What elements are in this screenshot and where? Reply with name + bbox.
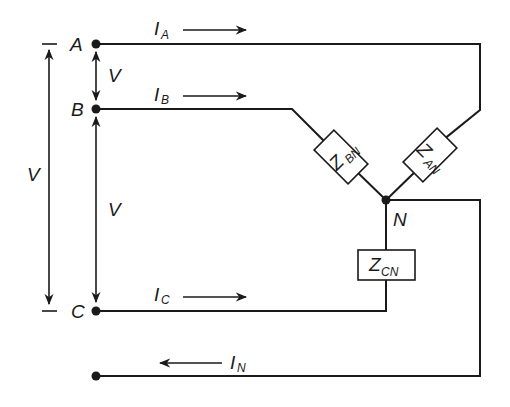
impedance-zbn: Z BN: [314, 127, 371, 184]
line-b-wire: [96, 109, 328, 145]
terminal-b-dot: [92, 105, 101, 114]
impedance-zcn: Z CN: [358, 250, 415, 280]
zan-to-n-wire: [386, 170, 417, 200]
current-ib-label-sub: B: [161, 93, 169, 107]
voltage-bc-label: V: [108, 199, 123, 220]
current-ic: I C: [154, 284, 246, 307]
current-in-label-sub: N: [237, 361, 246, 375]
current-in: I N: [160, 352, 246, 375]
current-ia: I A: [154, 18, 246, 42]
zcn-label-sub: CN: [381, 265, 399, 279]
neutral-node-dot: [382, 196, 391, 205]
terminal-n-dot: [92, 372, 101, 381]
node-b-label: B: [71, 99, 84, 120]
current-ic-label-sub: C: [161, 293, 170, 307]
circuit-diagram: Z BN Z AN Z CN A B C N V V V I A: [0, 0, 510, 407]
current-ib: I B: [154, 84, 246, 107]
node-n-label: N: [393, 209, 407, 230]
current-ia-label-sub: A: [160, 28, 169, 42]
terminal-a-dot: [92, 40, 101, 49]
node-c-label: C: [71, 301, 85, 322]
voltage-ac-label: V: [27, 164, 42, 185]
current-ib-label-main: I: [154, 84, 160, 105]
terminal-c-dot: [92, 307, 101, 316]
node-a-label: A: [69, 34, 83, 55]
current-ic-label-main: I: [154, 284, 160, 305]
zbn-to-n-wire: [355, 170, 386, 200]
current-ia-label-main: I: [154, 18, 160, 39]
line-c-wire: [96, 280, 386, 311]
zcn-label-main: Z: [368, 254, 382, 275]
current-in-label-main: I: [230, 352, 236, 373]
voltage-ab-label: V: [108, 65, 123, 86]
